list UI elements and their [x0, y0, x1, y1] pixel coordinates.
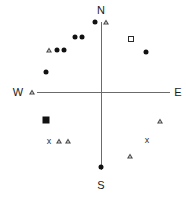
data-point-cross: x [47, 137, 52, 146]
compass-label-east: E [174, 87, 181, 98]
data-point-filled-circle [44, 70, 49, 75]
compass-label-north: N [97, 5, 105, 16]
data-point-filled-circle [62, 48, 67, 53]
compass-scatter-plot: N E S W xx [0, 0, 186, 197]
data-point-filled-circle [73, 35, 78, 40]
data-point-cross: x [145, 136, 150, 145]
vertical-axis [101, 22, 102, 170]
data-point-open-triangle [127, 154, 133, 159]
horizontal-axis [37, 92, 170, 93]
data-point-open-triangle [103, 20, 109, 25]
data-point-filled-circle [80, 35, 85, 40]
data-point-open-triangle [157, 119, 163, 124]
data-point-open-triangle [65, 139, 71, 144]
data-point-filled-square [43, 117, 50, 124]
data-point-open-triangle [56, 139, 62, 144]
data-point-filled-circle [55, 48, 60, 53]
data-point-filled-circle [144, 50, 149, 55]
data-point-open-triangle [29, 90, 35, 95]
compass-label-south: S [97, 180, 104, 191]
compass-label-west: W [13, 87, 23, 98]
data-point-filled-circle [93, 20, 98, 25]
data-point-open-square [128, 36, 134, 42]
data-point-filled-circle [99, 165, 104, 170]
data-point-open-triangle [46, 48, 52, 53]
